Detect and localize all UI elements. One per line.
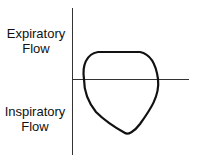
flow-volume-loop [84, 52, 159, 134]
flow-volume-loop-plot [0, 0, 199, 164]
